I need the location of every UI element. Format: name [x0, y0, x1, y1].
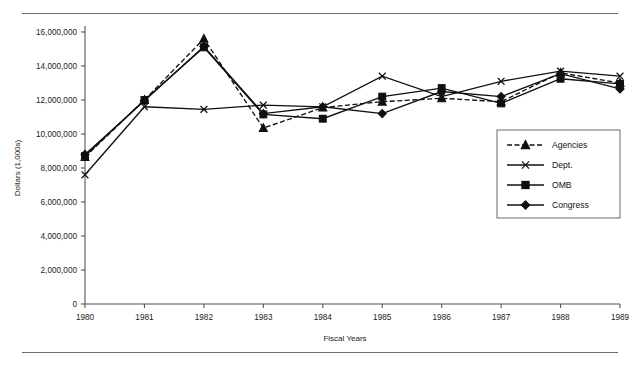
y-axis: 02,000,0004,000,0006,000,0008,000,00010,…: [36, 26, 85, 309]
x-tick-label: 1989: [611, 313, 630, 322]
y-tick-label: 10,000,000: [36, 130, 77, 139]
x-tick-label: 1986: [433, 313, 452, 322]
x-axis-title: Fiscal Years: [323, 334, 366, 343]
y-tick-label: 0: [72, 300, 77, 309]
chart-legend: AgenciesDept.OMBCongress: [497, 130, 620, 218]
x-tick-label: 1988: [551, 313, 570, 322]
x-tick-label: 1981: [135, 313, 154, 322]
legend-label: OMB: [552, 180, 572, 190]
y-tick-label: 4,000,000: [41, 232, 78, 241]
y-tick-label: 6,000,000: [41, 198, 78, 207]
data-point-diamond: [378, 110, 386, 118]
x-tick-label: 1984: [314, 313, 333, 322]
data-point-diamond: [497, 93, 505, 101]
data-point-square: [319, 115, 326, 122]
y-axis-title: Dollars (1,000s): [13, 139, 22, 196]
figure-root: 02,000,0004,000,0006,000,0008,000,00010,…: [0, 0, 639, 375]
data-point-x: [379, 73, 386, 80]
x-tick-label: 1982: [195, 313, 214, 322]
x-axis: 1980198119821983198419851986198719881989: [76, 304, 630, 322]
x-tick-label: 1983: [254, 313, 273, 322]
x-tick-label: 1987: [492, 313, 511, 322]
x-tick-label: 1980: [76, 313, 95, 322]
y-tick-label: 12,000,000: [36, 96, 77, 105]
x-tick-label: 1985: [373, 313, 392, 322]
y-tick-label: 16,000,000: [36, 28, 77, 37]
legend-label: Dept.: [552, 160, 573, 170]
data-point-triangle: [200, 34, 208, 42]
data-point-square: [379, 93, 386, 100]
y-tick-label: 2,000,000: [41, 266, 78, 275]
line-chart: 02,000,0004,000,0006,000,0008,000,00010,…: [0, 0, 639, 375]
y-tick-label: 8,000,000: [41, 164, 78, 173]
legend-label: Congress: [552, 200, 589, 210]
data-point-square: [522, 181, 529, 188]
legend-label: Agencies: [552, 140, 587, 150]
y-tick-label: 14,000,000: [36, 62, 77, 71]
